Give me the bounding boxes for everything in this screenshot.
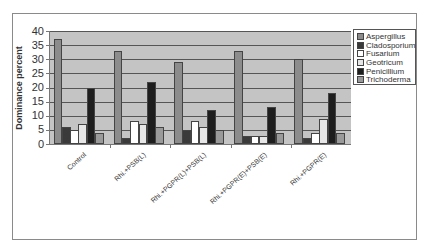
gridline: [50, 59, 351, 60]
legend-label: Geotricum: [366, 58, 403, 67]
y-tick-label: 35: [22, 40, 44, 51]
legend-swatch-icon: [357, 59, 364, 66]
gridline: [50, 45, 351, 46]
y-tick-label: 40: [22, 26, 44, 37]
y-tick-label: 5: [22, 124, 44, 135]
legend-label: Fusarium: [366, 49, 399, 58]
x-axis: [49, 144, 351, 145]
y-tick-label: 25: [22, 68, 44, 79]
y-tick: [46, 88, 50, 89]
y-tick: [46, 144, 50, 145]
bar-aspergillus: [114, 51, 123, 144]
legend-label: Aspergillus: [366, 32, 405, 41]
y-axis-title: Dominance percent: [14, 46, 24, 130]
y-tick-label: 30: [22, 54, 44, 65]
legend-swatch-icon: [357, 33, 364, 40]
legend-swatch-icon: [357, 68, 364, 75]
gridline: [50, 73, 351, 74]
legend-swatch-icon: [357, 42, 364, 49]
x-tick: [170, 144, 171, 148]
bar-aspergillus: [234, 51, 243, 144]
y-tick: [46, 130, 50, 131]
y-tick: [46, 102, 50, 103]
legend-item: Trichoderma: [357, 75, 415, 84]
legend-label: Trichoderma: [366, 75, 411, 84]
legend-swatch-icon: [357, 50, 364, 57]
x-tick: [231, 144, 232, 148]
bar-trichoderma: [276, 133, 285, 144]
legend-item: Aspergillus: [357, 32, 415, 41]
legend-item: Cladosporium: [357, 41, 415, 50]
bar-trichoderma: [155, 127, 164, 144]
y-tick: [46, 45, 50, 46]
y-tick: [46, 116, 50, 117]
bar-trichoderma: [95, 133, 104, 144]
plot-area: [50, 31, 351, 144]
bar-aspergillus: [294, 59, 303, 144]
legend-item: Penicillium: [357, 67, 415, 76]
y-tick-label: 15: [22, 96, 44, 107]
legend-label: Penicillium: [366, 67, 404, 76]
y-tick: [46, 31, 50, 32]
bar-trichoderma: [215, 130, 224, 144]
y-tick: [46, 59, 50, 60]
legend: AspergillusCladosporiumFusariumGeotricum…: [353, 29, 416, 85]
legend-item: Geotricum: [357, 58, 415, 67]
y-tick-label: 0: [22, 139, 44, 150]
legend-label: Cladosporium: [366, 41, 415, 50]
y-tick: [46, 73, 50, 74]
y-tick-label: 10: [22, 110, 44, 121]
gridline: [50, 31, 351, 32]
y-tick-label: 20: [22, 82, 44, 93]
bar-trichoderma: [336, 133, 345, 144]
x-tick: [291, 144, 292, 148]
x-tick: [110, 144, 111, 148]
legend-item: Fusarium: [357, 49, 415, 58]
legend-swatch-icon: [357, 76, 364, 83]
